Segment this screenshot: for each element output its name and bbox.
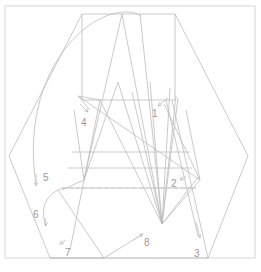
lines-group (50, 14, 208, 258)
line-5 (84, 14, 162, 224)
line-6 (132, 82, 162, 224)
label-3: 3 (194, 248, 200, 259)
arrow-7-icon (60, 240, 66, 244)
curves-group (33, 12, 140, 226)
arrow-4-icon (80, 104, 88, 112)
label-2: 2 (171, 178, 177, 189)
label-7: 7 (65, 247, 71, 258)
line-14 (172, 100, 208, 258)
top-arc-to-5 (33, 12, 140, 184)
line-diagram: 12345678 (0, 0, 261, 272)
label-8: 8 (144, 237, 150, 248)
arrow-8-icon (133, 234, 143, 240)
arc-6 (43, 188, 62, 226)
label-5: 5 (43, 172, 49, 183)
line-15 (50, 190, 104, 258)
label-1: 1 (152, 108, 158, 119)
arrow-2-icon (180, 176, 186, 180)
label-6: 6 (33, 209, 39, 220)
label-4: 4 (81, 117, 87, 128)
arrows-group (34, 98, 201, 244)
line-7 (140, 14, 162, 224)
line-11 (78, 96, 200, 224)
line-4 (78, 14, 162, 224)
diagram-canvas: 12345678 (0, 0, 261, 272)
labels-group: 12345678 (33, 108, 200, 259)
line-0 (82, 14, 175, 100)
